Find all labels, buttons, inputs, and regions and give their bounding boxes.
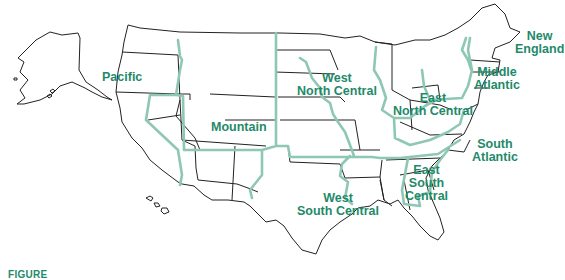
label-west-north-central: West North Central	[297, 72, 377, 98]
label-south-atlantic: South Atlantic	[472, 138, 518, 164]
alaska-outline	[17, 32, 112, 104]
label-new-england: New England	[515, 30, 564, 56]
label-east-north-central: East North Central	[393, 92, 473, 118]
label-west-south-central: West South Central	[297, 192, 379, 218]
label-pacific: Pacific	[102, 71, 142, 84]
label-middle-atlantic: Middle Atlantic	[474, 66, 520, 92]
label-east-south-central: East South Central	[405, 164, 448, 203]
label-mountain: Mountain	[211, 121, 267, 134]
figure-caption: FIGURE	[8, 269, 48, 280]
hawaii-outline	[146, 196, 169, 214]
